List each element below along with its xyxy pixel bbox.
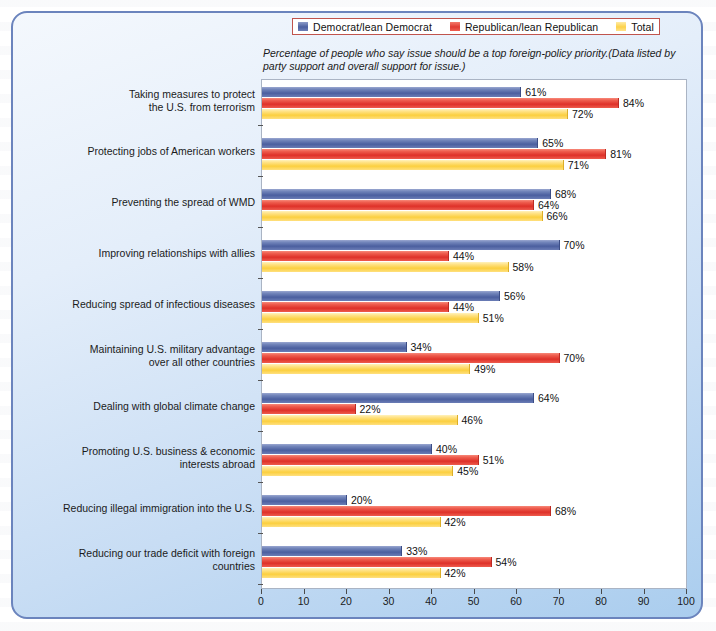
- chart-legend: Democrat/lean Democrat Republican/lean R…: [292, 18, 660, 35]
- category-label-line: Reducing illegal immigration into the U.…: [41, 502, 255, 515]
- legend-swatch-democrat: [298, 22, 308, 31]
- x-axis-tick-label: 50: [468, 595, 480, 607]
- legend-item-republican: Republican/lean Republican: [450, 21, 598, 33]
- category-label-line: Improving relationships with allies: [41, 247, 255, 260]
- bar-dem: [262, 342, 407, 352]
- category-label-line: Maintaining U.S. military advantage: [41, 343, 255, 356]
- legend-item-democrat: Democrat/lean Democrat: [298, 21, 432, 33]
- legend-label-democrat: Democrat/lean Democrat: [313, 21, 432, 33]
- x-axis-tick: [686, 589, 687, 594]
- x-axis-tick-label: 100: [677, 595, 695, 607]
- bar-value-label: 44%: [453, 251, 474, 261]
- bar-value-label: 65%: [542, 138, 563, 148]
- bar-tot: [262, 109, 568, 119]
- category-label-line: Protecting jobs of American workers: [41, 145, 255, 158]
- bar-tot: [262, 313, 479, 323]
- x-axis-tick-label: 90: [638, 595, 650, 607]
- category-label-line: interests abroad: [41, 458, 255, 471]
- bar-rep: [262, 302, 449, 312]
- x-axis-tick-label: 30: [383, 595, 395, 607]
- bar-value-label: 44%: [453, 302, 474, 312]
- bar-value-label: 70%: [564, 240, 585, 250]
- bar-value-label: 66%: [547, 211, 568, 221]
- x-axis-tick-label: 40: [425, 595, 437, 607]
- bar-rep: [262, 557, 492, 567]
- bar-dem: [262, 87, 521, 97]
- bar-value-label: 68%: [555, 189, 576, 199]
- category-label-line: the U.S. from terrorism: [41, 101, 255, 114]
- bar-dem: [262, 291, 500, 301]
- bar-tot: [262, 415, 458, 425]
- bar-rep: [262, 506, 551, 516]
- x-axis-tick-label: 80: [595, 595, 607, 607]
- category-label-line: Dealing with global climate change: [41, 400, 255, 413]
- bar-tot: [262, 517, 441, 527]
- category-label-line: Taking measures to protect: [41, 88, 255, 101]
- x-axis-tick: [431, 589, 432, 594]
- bar-dem: [262, 138, 538, 148]
- x-axis: 0102030405060708090100: [261, 589, 687, 615]
- bar-dem: [262, 393, 534, 403]
- chart-frame: Democrat/lean Democrat Republican/lean R…: [11, 11, 703, 619]
- bar-value-label: 70%: [564, 353, 585, 363]
- x-axis-tick-label: 70: [553, 595, 565, 607]
- bar-dem: [262, 546, 402, 556]
- legend-label-republican: Republican/lean Republican: [465, 21, 598, 33]
- x-axis-tick: [474, 589, 475, 594]
- bar-tot: [262, 160, 564, 170]
- bar-value-label: 84%: [623, 98, 644, 108]
- category-label: Promoting U.S. business & economicintere…: [41, 445, 255, 471]
- bar-rep: [262, 455, 479, 465]
- y-axis-tick: [258, 431, 263, 432]
- y-axis-tick: [258, 329, 263, 330]
- category-label: Reducing our trade deficit with foreignc…: [41, 547, 255, 573]
- bar-tot: [262, 568, 441, 578]
- y-axis-tick: [258, 533, 263, 534]
- bar-value-label: 54%: [496, 557, 517, 567]
- bar-value-label: 42%: [445, 568, 466, 578]
- legend-swatch-total: [616, 22, 626, 31]
- bar-dem: [262, 189, 551, 199]
- x-axis-tick: [601, 589, 602, 594]
- bar-value-label: 61%: [525, 87, 546, 97]
- bar-value-label: 45%: [457, 466, 478, 476]
- bar-dem: [262, 444, 432, 454]
- category-label: Preventing the spread of WMD: [41, 196, 255, 209]
- y-axis-tick: [258, 278, 263, 279]
- legend-item-total: Total: [616, 21, 654, 33]
- x-axis-tick-label: 0: [258, 595, 264, 607]
- bar-tot: [262, 262, 509, 272]
- bar-tot: [262, 466, 453, 476]
- category-label: Reducing illegal immigration into the U.…: [41, 502, 255, 515]
- x-axis-tick: [516, 589, 517, 594]
- legend-label-total: Total: [631, 21, 654, 33]
- y-axis-tick: [258, 584, 263, 585]
- bar-rep: [262, 353, 560, 363]
- bar-value-label: 64%: [538, 393, 559, 403]
- chart-subtitle: Percentage of people who say issue shoul…: [263, 47, 687, 73]
- bar-rep: [262, 149, 606, 159]
- bar-tot: [262, 211, 543, 221]
- y-axis-tick: [258, 380, 263, 381]
- bar-tot: [262, 364, 470, 374]
- x-axis-tick-label: 60: [510, 595, 522, 607]
- category-label: Maintaining U.S. military advantageover …: [41, 343, 255, 369]
- bar-value-label: 64%: [538, 200, 559, 210]
- category-label: Dealing with global climate change: [41, 400, 255, 413]
- x-axis-tick: [304, 589, 305, 594]
- bar-rep: [262, 404, 356, 414]
- category-label: Taking measures to protectthe U.S. from …: [41, 88, 255, 114]
- bar-value-label: 42%: [445, 517, 466, 527]
- category-label-line: Promoting U.S. business & economic: [41, 445, 255, 458]
- bar-value-label: 34%: [411, 342, 432, 352]
- bar-rep: [262, 251, 449, 261]
- category-label: Reducing spread of infectious diseases: [41, 298, 255, 311]
- plot-area: 61%84%72%65%81%71%68%64%66%70%44%58%56%4…: [261, 79, 687, 589]
- y-axis-tick: [258, 227, 263, 228]
- bar-value-label: 22%: [360, 404, 381, 414]
- x-axis-tick-label: 20: [340, 595, 352, 607]
- category-label-line: countries: [41, 560, 255, 573]
- bars-container: 61%84%72%65%81%71%68%64%66%70%44%58%56%4…: [262, 80, 686, 588]
- y-axis-tick: [258, 482, 263, 483]
- category-label-line: Reducing our trade deficit with foreign: [41, 547, 255, 560]
